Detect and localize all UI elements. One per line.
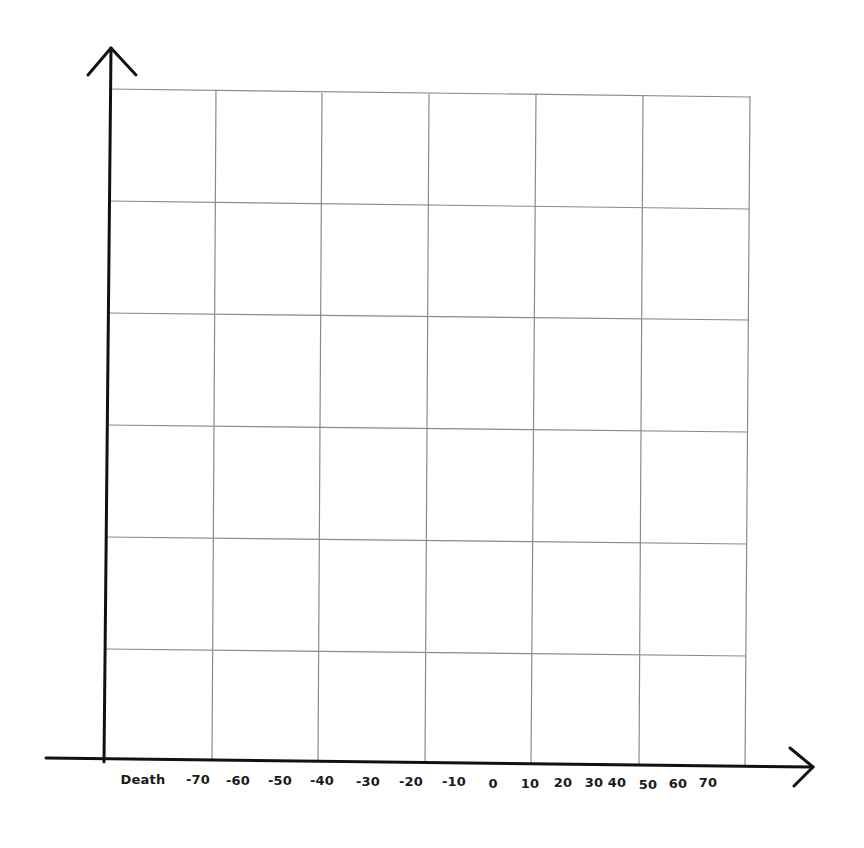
x-tick-label: 30 [585,775,604,790]
grid-horizontal-line [105,649,745,656]
x-tick-label: -10 [442,774,466,789]
x-tick-label: -20 [399,774,423,789]
x-tick-label: 0 [488,776,497,791]
axes [46,48,813,786]
grid-horizontal-line [109,201,749,209]
grid-lines [105,89,750,767]
x-axis [46,758,813,767]
x-tick-label: Death [121,772,166,787]
x-tick-label: 40 [608,775,627,790]
x-tick-label: -70 [186,772,210,787]
chart-canvas [0,0,864,848]
y-axis [104,48,111,762]
x-tick-label: 20 [554,775,573,790]
x-tick-label: -40 [310,773,334,788]
x-tick-label: -50 [268,773,292,788]
x-tick-label: -60 [226,773,250,788]
x-tick-label: 70 [699,775,718,790]
grid-vertical-line [212,91,216,760]
x-tick-label: -30 [356,774,380,789]
x-tick-label: 10 [521,776,540,791]
grid-horizontal-line [110,89,750,97]
x-tick-label: 50 [639,777,658,792]
x-tick-label: 60 [669,776,688,791]
